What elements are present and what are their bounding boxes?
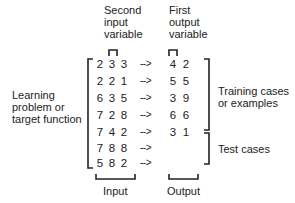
input-cell: 2 — [119, 157, 129, 169]
first-output-marker — [169, 50, 177, 56]
label-line: target function — [12, 113, 82, 125]
input-cell: 8 — [107, 157, 117, 169]
learning-problem-label: Learning problem or target function — [12, 89, 82, 125]
input-cell: 5 — [95, 157, 105, 169]
input-cell: 2 — [95, 75, 105, 87]
input-cell: 2 — [107, 75, 117, 87]
input-label: Input — [103, 185, 127, 197]
test-bracket — [204, 133, 209, 164]
output-cell: 1 — [181, 126, 191, 138]
input-cell: 2 — [119, 126, 129, 138]
label-line: Training cases — [218, 85, 289, 97]
input-cell: 5 — [119, 92, 129, 104]
arrow-icon: --> — [140, 142, 151, 154]
input-cell: 4 — [107, 126, 117, 138]
output-cell: 9 — [181, 92, 191, 104]
output-cell: 2 — [181, 58, 191, 70]
arrow-icon: --> — [140, 109, 151, 121]
input-cell: 6 — [95, 92, 105, 104]
training-cases-label: Training cases or examples — [218, 85, 289, 109]
input-cell: 7 — [95, 126, 105, 138]
learning-bracket — [88, 59, 93, 168]
input-cell: 8 — [119, 109, 129, 121]
first-output-label: First output variable — [169, 4, 208, 40]
label-line: Learning — [12, 89, 82, 101]
arrow-icon: --> — [140, 75, 151, 87]
output-cell: 3 — [168, 126, 178, 138]
input-cell: 7 — [95, 109, 105, 121]
input-cell: 2 — [95, 58, 105, 70]
input-cell: 3 — [107, 92, 117, 104]
input-cell: 3 — [119, 58, 129, 70]
arrow-icon: --> — [140, 126, 151, 138]
input-cell: 7 — [95, 142, 105, 154]
label-line: problem or — [12, 101, 82, 113]
input-cell: 2 — [107, 109, 117, 121]
output-bracket — [169, 174, 198, 179]
output-cell: 5 — [181, 75, 191, 87]
label-line: variable — [169, 28, 208, 40]
output-cell: 4 — [168, 58, 178, 70]
arrow-icon: --> — [140, 58, 151, 70]
second-input-marker — [109, 50, 117, 56]
label-line: output — [169, 16, 208, 28]
output-cell: 6 — [168, 109, 178, 121]
input-cell: 1 — [119, 75, 129, 87]
input-cell: 8 — [107, 142, 117, 154]
output-cell: 5 — [168, 75, 178, 87]
input-bracket — [96, 174, 135, 179]
label-line: input — [104, 16, 143, 28]
input-cell: 3 — [107, 58, 117, 70]
test-cases-label: Test cases — [218, 143, 270, 155]
output-cell: 3 — [168, 92, 178, 104]
arrow-icon: --> — [140, 92, 151, 104]
output-cell: 6 — [181, 109, 191, 121]
arrow-icon: --> — [140, 157, 151, 169]
label-line: Second — [104, 4, 143, 16]
output-label: Output — [167, 185, 200, 197]
input-cell: 8 — [119, 142, 129, 154]
label-line: or examples — [218, 97, 289, 109]
training-bracket — [204, 59, 209, 130]
second-input-label: Second input variable — [104, 4, 143, 40]
label-line: variable — [104, 28, 143, 40]
label-line: First — [169, 4, 208, 16]
